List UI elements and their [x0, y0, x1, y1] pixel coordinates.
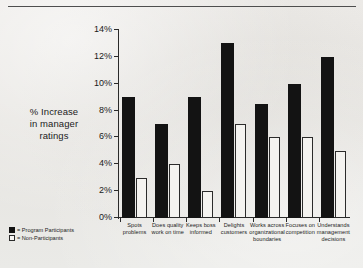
bar-non-participants — [136, 178, 147, 218]
x-axis-category-label: Delightscustomers — [215, 222, 252, 236]
bar-group — [217, 30, 250, 218]
y-axis-tick-label: 10% — [94, 78, 112, 88]
y-axis-title-line-3: ratings — [8, 130, 100, 142]
bar-chart-plot-area: 0%2%4%6%8%10%12%14% SpotsproblemsDoes qu… — [118, 30, 350, 218]
bar-non-participants — [335, 151, 346, 218]
category-label-line: work on time — [149, 229, 186, 236]
category-label-line: management — [315, 229, 352, 236]
category-label-line: decisions — [315, 236, 352, 243]
category-label-line: problems — [116, 229, 153, 236]
bar-group — [184, 30, 217, 218]
x-axis-category-label: Does qualitywork on time — [149, 222, 186, 236]
legend-item-program-participants: = Program Participants — [9, 226, 74, 234]
category-label-line: Works across — [249, 222, 286, 229]
bar-program-participants — [221, 43, 234, 218]
bar-group — [317, 30, 350, 218]
bar-program-participants — [188, 97, 201, 218]
category-label-line: informed — [182, 229, 219, 236]
bar-program-participants — [288, 84, 301, 218]
x-axis-category-label: Understandsmanagementdecisions — [315, 222, 352, 244]
y-axis-tick-label: 8% — [99, 105, 112, 115]
y-axis-tick-label: 2% — [99, 185, 112, 195]
y-axis-tick-label: 14% — [94, 24, 112, 34]
bar-group — [151, 30, 184, 218]
x-axis-category-label: Works acrossorganizationalboundaries — [249, 222, 286, 244]
x-axis-category-label: Spotsproblems — [116, 222, 153, 236]
legend-swatch-outlined-square-icon — [9, 235, 15, 241]
category-label-line: Keeps boss — [182, 222, 219, 229]
top-divider-rule — [8, 6, 356, 7]
bar-group — [118, 30, 151, 218]
y-axis-tick-label: 0% — [99, 212, 112, 222]
y-axis-tick-label: 6% — [99, 131, 112, 141]
bar-program-participants — [122, 97, 135, 218]
x-axis-category-label: Focuses oncompetition — [282, 222, 319, 236]
bar-program-participants — [155, 124, 168, 218]
legend-label-non-participants: = Non-Participants — [17, 234, 63, 242]
bar-group — [251, 30, 284, 218]
x-axis-category-label: Keeps bossinformed — [182, 222, 219, 236]
category-label-line: Delights — [215, 222, 252, 229]
bar-non-participants — [202, 191, 213, 218]
category-label-line: boundaries — [249, 236, 286, 243]
category-label-line: Focuses on — [282, 222, 319, 229]
category-label-line: customers — [215, 229, 252, 236]
category-label-line: organizational — [249, 229, 286, 236]
bar-non-participants — [169, 164, 180, 218]
bar-program-participants — [321, 57, 334, 218]
chart-legend: = Program Participants = Non-Participant… — [9, 226, 74, 242]
category-label-line: competition — [282, 229, 319, 236]
legend-item-non-participants: = Non-Participants — [9, 234, 74, 242]
y-axis-tick-label: 12% — [94, 51, 112, 61]
bar-group — [284, 30, 317, 218]
bar-non-participants — [269, 137, 280, 218]
category-label-line: Spots — [116, 222, 153, 229]
legend-label-program-participants: = Program Participants — [17, 226, 74, 234]
y-axis-title: % Increase in manager ratings — [8, 106, 100, 142]
y-axis-tick-label: 4% — [99, 158, 112, 168]
y-axis-title-line-1: % Increase — [8, 106, 100, 118]
category-label-line: Does quality — [149, 222, 186, 229]
bar-program-participants — [255, 104, 268, 218]
y-axis-title-line-2: in manager — [8, 118, 100, 130]
category-label-line: Understands — [315, 222, 352, 229]
legend-swatch-filled-square-icon — [9, 227, 15, 233]
bar-non-participants — [302, 137, 313, 218]
bar-non-participants — [235, 124, 246, 218]
